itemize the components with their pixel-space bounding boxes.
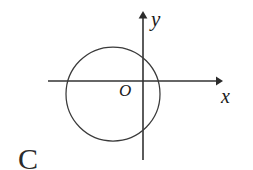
y-axis-arrowhead-icon <box>139 11 148 19</box>
circle-shape <box>66 47 160 141</box>
x-axis-label: x <box>221 86 230 106</box>
y-axis-label: y <box>151 9 160 30</box>
option-letter-label: C <box>18 144 38 170</box>
figure-canvas: y x O C <box>0 0 253 170</box>
origin-label: O <box>119 82 131 99</box>
